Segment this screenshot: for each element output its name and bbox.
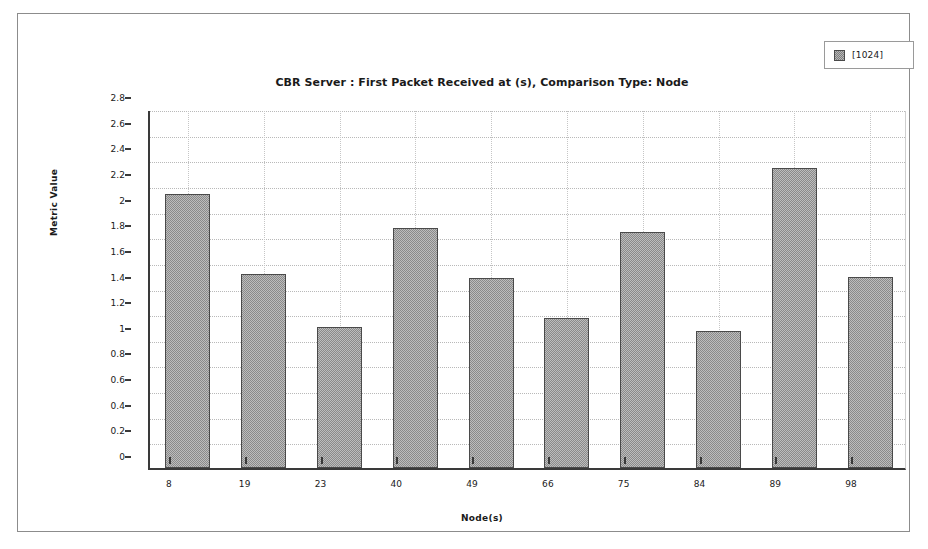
bar-84[interactable] [696, 331, 741, 468]
x-axis-tick-label: 98 [821, 479, 881, 489]
y-axis-tick-mark [125, 353, 131, 355]
x-axis-tick-label: 89 [745, 479, 805, 489]
y-axis-tick-label: 1.4 [85, 273, 125, 283]
chart-legend: [1024] [824, 41, 914, 69]
y-axis-tick-mark [125, 430, 131, 432]
x-axis-tick-label: 8 [139, 479, 199, 489]
y-axis-tick-mark [125, 200, 131, 202]
bar-23[interactable] [317, 327, 362, 468]
y-axis-tick-mark [125, 251, 131, 253]
x-axis-tick-mark [245, 457, 247, 464]
x-axis-tick-label: 23 [291, 479, 351, 489]
y-axis-tick-mark [125, 277, 131, 279]
y-axis-tick-label: 1.2 [85, 298, 125, 308]
x-axis-tick-mark [775, 457, 777, 464]
x-axis-tick-label: 84 [670, 479, 730, 489]
y-axis-tick-label: 0.4 [85, 401, 125, 411]
x-axis-tick-mark [396, 457, 398, 464]
legend-entry-label: [1024] [852, 50, 883, 60]
y-axis-tick-mark [125, 225, 131, 227]
y-axis-tick-mark [125, 328, 131, 330]
bar-19[interactable] [241, 274, 286, 468]
x-axis-tick-label: 40 [366, 479, 426, 489]
y-axis-tick-label: 2.8 [85, 93, 125, 103]
y-axis-tick-label: 1.6 [85, 247, 125, 257]
bar-8[interactable] [165, 194, 210, 468]
y-axis-tick-label: 1 [85, 324, 125, 334]
bar-66[interactable] [544, 318, 589, 468]
x-axis-tick-mark [548, 457, 550, 464]
gridline-horizontal [150, 162, 905, 163]
y-axis-tick-label: 2.6 [85, 119, 125, 129]
x-axis-tick-mark [321, 457, 323, 464]
y-axis-tick-mark [125, 456, 131, 458]
y-axis-tick-mark [125, 123, 131, 125]
y-axis-tick-label: 1.8 [85, 221, 125, 231]
y-axis-tick-mark [125, 379, 131, 381]
y-axis-tick-label: 2.4 [85, 144, 125, 154]
y-axis-title: Metric Value [49, 169, 59, 236]
x-axis-tick-mark [700, 457, 702, 464]
y-axis-tick-label: 0.2 [85, 426, 125, 436]
gridline-horizontal [150, 137, 905, 138]
y-axis-tick-label: 2 [85, 196, 125, 206]
chart-title: CBR Server : First Packet Received at (s… [18, 76, 928, 89]
x-axis-tick-label: 66 [518, 479, 578, 489]
x-axis-tick-label: 49 [442, 479, 502, 489]
y-axis-tick-mark [125, 405, 131, 407]
bar-89[interactable] [772, 168, 817, 468]
y-axis-tick-label: 0.8 [85, 349, 125, 359]
y-axis-tick-mark [125, 302, 131, 304]
x-axis-tick-mark [624, 457, 626, 464]
chart-frame: [1024] CBR Server : First Packet Receive… [17, 13, 910, 532]
x-axis-tick-label: 19 [215, 479, 275, 489]
y-axis-tick-label: 0 [85, 452, 125, 462]
gridline-horizontal [150, 111, 905, 112]
y-axis-tick-mark [125, 97, 131, 99]
bar-98[interactable] [848, 277, 893, 468]
x-axis-tick-mark [472, 457, 474, 464]
legend-swatch-icon [834, 50, 845, 61]
x-axis-tick-mark [851, 457, 853, 464]
bar-40[interactable] [393, 228, 438, 468]
y-axis-tick-mark [125, 174, 131, 176]
bar-75[interactable] [620, 232, 665, 468]
plot-area [148, 111, 906, 470]
y-axis-tick-label: 2.2 [85, 170, 125, 180]
x-axis-tick-label: 75 [594, 479, 654, 489]
x-axis-title: Node(s) [18, 513, 928, 523]
chart-viewer: [1024] CBR Server : First Packet Receive… [0, 0, 928, 549]
bar-49[interactable] [469, 278, 514, 468]
x-axis-tick-mark [169, 457, 171, 464]
y-axis-tick-mark [125, 148, 131, 150]
y-axis-tick-label: 0.6 [85, 375, 125, 385]
